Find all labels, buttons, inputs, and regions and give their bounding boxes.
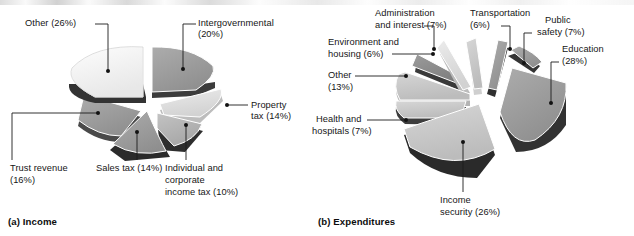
pie-chart-income	[12, 24, 248, 161]
label-sales-tax: Sales tax (14%)	[96, 163, 162, 174]
pie-slice-education[interactable]	[500, 68, 566, 152]
caption-panel-b: (b) Expenditures	[318, 216, 395, 227]
pie-slice-intergovernmental[interactable]	[152, 47, 215, 98]
pie-slice-other-income[interactable]	[69, 47, 146, 103]
pie-chart-expenditures	[355, 26, 566, 192]
figure-two-pie-charts: Other (26%) Intergovernmental (20%) Prop…	[0, 0, 634, 236]
label-other-income: Other (26%)	[25, 18, 76, 29]
caption-panel-a: (a) Income	[8, 216, 57, 227]
